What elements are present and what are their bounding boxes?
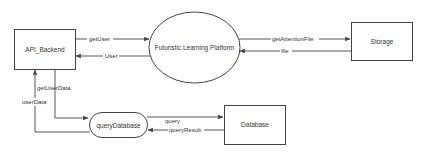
node-query-database: queryDatabase	[90, 113, 148, 138]
edge-label-get-user-data: getUserData	[37, 85, 71, 91]
edge-label-file: file	[281, 48, 289, 54]
node-storage: Storage	[352, 23, 413, 61]
edge-label-query: query	[165, 118, 180, 124]
edge-user: User	[76, 52, 150, 60]
edge-get-user-data: getUserData	[37, 69, 88, 118]
edge-query: query	[147, 117, 223, 124]
edge-file: file	[240, 47, 351, 55]
node-label-query-database: queryDatabase	[96, 122, 140, 130]
node-label-database: Database	[241, 121, 269, 128]
edge-label-get-attention-file: getAttentionFile	[272, 36, 314, 42]
edge-query-result: queryResult	[148, 126, 224, 134]
edge-get-attention-file: getAttentionFile	[239, 35, 350, 43]
node-futuristic-learning-platform: Futuristic Learning Platform	[149, 12, 240, 83]
node-database: Database	[225, 106, 286, 145]
node-label-storage: Storage	[371, 38, 394, 46]
edge-label-user: User	[105, 53, 118, 59]
edge-label-get-user: getUser	[89, 36, 110, 42]
data-flow-diagram: getUser User getAttentionFile file getUs…	[0, 0, 426, 152]
edge-label-user-data: userData	[22, 99, 47, 105]
node-label-platform: Futuristic Learning Platform	[155, 44, 234, 52]
edge-get-user: getUser	[75, 35, 149, 43]
node-label-api-backend: API_Backend	[25, 46, 65, 54]
node-api-backend: API_Backend	[15, 30, 76, 70]
edge-label-query-result: queryResult	[169, 127, 201, 133]
edge-user-data: userData	[21, 70, 90, 132]
